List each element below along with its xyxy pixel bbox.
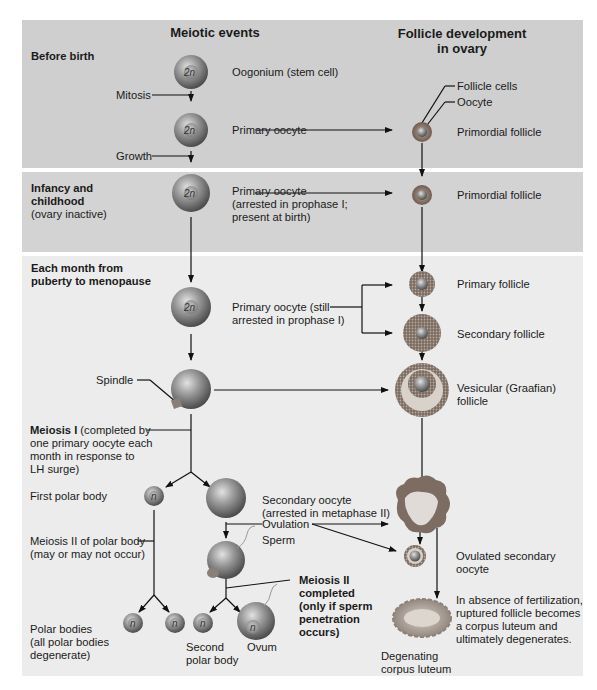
label-primary-follicle: Primary follicle xyxy=(457,278,530,291)
label-primary-oocyte: Primary oocyte xyxy=(232,124,307,137)
header-follicle-line2: in ovary xyxy=(372,41,552,56)
primary-follicle xyxy=(409,271,435,297)
primordial-follicle-1 xyxy=(412,122,432,142)
label-vesicular-follicle-1: Vesicular (Graafian) xyxy=(457,382,556,395)
label-absence-4: ultimately degenerates. xyxy=(456,633,572,646)
label-ovulated-oocyte-1: Ovulated secondary xyxy=(456,550,556,563)
label-polar-bodies-3: degenerate) xyxy=(30,649,90,662)
label-absence-1: In absence of fertilization, xyxy=(456,594,583,607)
label-spindle: Spindle xyxy=(96,374,133,387)
label-primary-oocyte-arrested-2: (arrested in prophase I; xyxy=(232,198,348,211)
label-polar-bodies-1: Polar bodies xyxy=(30,623,92,636)
ploidy-label: 2n xyxy=(184,124,195,137)
stage-infancy-line2: childhood xyxy=(31,195,84,208)
meiosis-1-bold: Meiosis I xyxy=(30,424,77,436)
stage-monthly-line1: Each month from xyxy=(31,262,123,275)
label-growth: Growth xyxy=(116,150,152,163)
ovum-cell xyxy=(237,584,277,640)
label-primary-oocyte-still-2: arrested in prophase I) xyxy=(232,314,345,327)
label-meiosis-1-line3: month in response to xyxy=(30,450,134,463)
label-secondary-oocyte-1: Secondary oocyte xyxy=(262,494,352,507)
ploidy-label: 2n xyxy=(184,187,195,200)
stage-infancy-line1: Infancy and xyxy=(31,182,93,195)
label-primary-oocyte-arrested-3: present at birth) xyxy=(232,211,310,224)
ploidy-label: 2n xyxy=(184,301,195,314)
secondary-follicle xyxy=(403,314,441,352)
label-polar-bodies-2: (all polar bodies xyxy=(30,636,109,649)
label-secondary-follicle: Secondary follicle xyxy=(457,328,545,341)
label-sperm: Sperm xyxy=(262,534,295,547)
ploidy-label: n xyxy=(250,621,256,634)
meiosis-1-text: (completed by xyxy=(77,424,150,436)
ploidy-label: n xyxy=(151,490,157,503)
label-absence-2: ruptured follicle becomes xyxy=(456,607,580,620)
label-first-polar-body: First polar body xyxy=(30,490,107,503)
label-meiosis-2-completed-5: occurs) xyxy=(299,626,339,639)
corpus-luteum xyxy=(393,599,451,637)
label-meiosis-2-completed-4: penetration xyxy=(299,613,360,626)
spindle-cell xyxy=(171,369,211,409)
label-primordial-follicle-2: Primordial follicle xyxy=(457,189,542,202)
label-ovulation: Ovulation xyxy=(262,518,309,531)
label-meiosis-2-completed-3: (only if sperm xyxy=(299,600,372,613)
ruptured-follicle xyxy=(396,475,450,533)
label-meiosis-1-line4: LH surge) xyxy=(30,463,79,476)
label-mitosis: Mitosis xyxy=(116,89,151,102)
label-follicle-cells: Follicle cells xyxy=(457,80,517,93)
header-follicle-development: Follicle development in ovary xyxy=(372,26,552,56)
label-meiosis-2-polar-1: Meiosis II of polar body xyxy=(30,535,145,548)
label-meiosis-2-polar-2: (may or may not occur) xyxy=(30,548,145,561)
label-degenerating-2: corpus luteum xyxy=(381,663,451,676)
label-vesicular-follicle-2: follicle xyxy=(457,395,488,408)
label-meiosis-2-completed-1: Meiosis II xyxy=(299,574,349,587)
ovulated-secondary-oocyte xyxy=(404,545,426,567)
label-meiosis-1: Meiosis I (completed by xyxy=(30,424,151,437)
stage-before-birth: Before birth xyxy=(31,50,94,63)
stage-infancy-note: (ovary inactive) xyxy=(31,208,107,221)
ploidy-label: n xyxy=(130,617,136,630)
ploidy-label: n xyxy=(200,617,206,630)
label-second-polar-body-1: Second xyxy=(186,641,224,654)
fertilized-oocyte-cell xyxy=(207,526,255,579)
label-primary-oocyte-still-1: Primary oocyte (still xyxy=(232,301,330,314)
primordial-follicle-2 xyxy=(412,185,432,205)
label-oocyte: Oocyte xyxy=(457,96,492,109)
label-primary-oocyte-arrested-1: Primary oocyte xyxy=(232,185,307,198)
label-oogonium: Oogonium (stem cell) xyxy=(232,66,338,79)
header-meiotic-events: Meiotic events xyxy=(150,25,280,40)
label-meiosis-1-line2: one primary oocyte each xyxy=(30,437,153,450)
stage-monthly-line2: puberty to menopause xyxy=(31,275,151,288)
ploidy-label: 2n xyxy=(184,66,195,79)
label-meiosis-2-completed-2: completed xyxy=(299,587,355,600)
label-ovum: Ovum xyxy=(247,641,277,654)
secondary-oocyte-cell xyxy=(206,478,246,518)
vesicular-follicle xyxy=(395,363,449,417)
label-second-polar-body-2: polar body xyxy=(186,654,238,667)
label-primordial-follicle-1: Primordial follicle xyxy=(457,126,542,139)
label-degenerating-1: Degenating xyxy=(381,650,438,663)
label-ovulated-oocyte-2: oocyte xyxy=(456,563,489,576)
ploidy-label: n xyxy=(172,617,178,630)
label-absence-3: a corpus luteum and xyxy=(456,620,557,633)
header-follicle-line1: Follicle development xyxy=(372,26,552,41)
